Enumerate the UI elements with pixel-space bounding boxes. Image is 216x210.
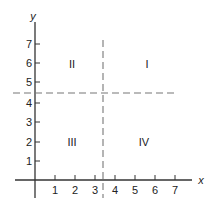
quadrant-label-iii: III (67, 136, 76, 148)
x-tick-label: 2 (72, 184, 78, 196)
y-tick-label: 2 (26, 136, 32, 148)
x-ticks: 1 2 3 4 5 6 7 (52, 175, 178, 196)
y-tick-label: 4 (26, 97, 32, 109)
x-tick-label: 7 (172, 184, 178, 196)
y-tick-label: 5 (26, 76, 32, 88)
y-tick-label: 6 (26, 57, 32, 69)
y-ticks: 1 2 3 4 5 6 7 (26, 38, 40, 167)
x-tick-label: 3 (92, 184, 98, 196)
x-tick-label: 6 (152, 184, 158, 196)
y-tick-label: 3 (26, 116, 32, 128)
y-tick-label: 7 (26, 38, 32, 50)
quadrant-label-i: I (145, 58, 148, 70)
quadrant-label-iv: IV (139, 136, 150, 148)
x-axis-label: x (197, 174, 204, 186)
x-tick-label: 1 (52, 184, 58, 196)
y-axis-label: y (29, 10, 37, 22)
x-tick-label: 5 (132, 184, 138, 196)
x-tick-label: 4 (112, 184, 118, 196)
quadrant-diagram: y x 1 2 3 4 5 6 7 1 (0, 0, 216, 210)
y-tick-label: 1 (26, 155, 32, 167)
quadrant-label-ii: II (69, 58, 75, 70)
